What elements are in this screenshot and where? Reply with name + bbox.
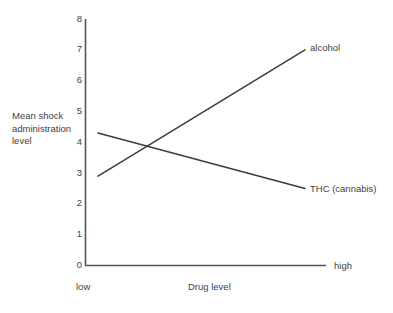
y-tick-label-6: 6 [68,75,82,85]
y-tick-label-2: 2 [68,198,82,208]
y-tick-label-1: 1 [68,229,82,239]
series-label-thc: THC (cannabis) [310,183,377,194]
y-axis-title-line-2: administration [12,123,80,136]
series-line-thc [98,133,305,188]
y-axis-title-line-3: level [12,135,80,148]
y-axis-title: Mean shock administration level [12,110,80,148]
x-tick-label-high: high [334,260,352,271]
y-tick-label-7: 7 [68,44,82,54]
series-label-alcohol: alcohol [310,42,340,53]
y-tick-label-8: 8 [68,14,82,24]
series-line-alcohol [98,50,305,176]
line-chart: 8 7 6 5 4 3 2 1 0 Mean shock administrat… [0,0,393,313]
x-axis-title: Drug level [188,281,231,294]
y-axis-title-line-1: Mean shock [12,110,80,123]
y-tick-label-0: 0 [68,260,82,270]
x-tick-label-low: low [76,281,90,292]
y-tick-label-3: 3 [68,168,82,178]
